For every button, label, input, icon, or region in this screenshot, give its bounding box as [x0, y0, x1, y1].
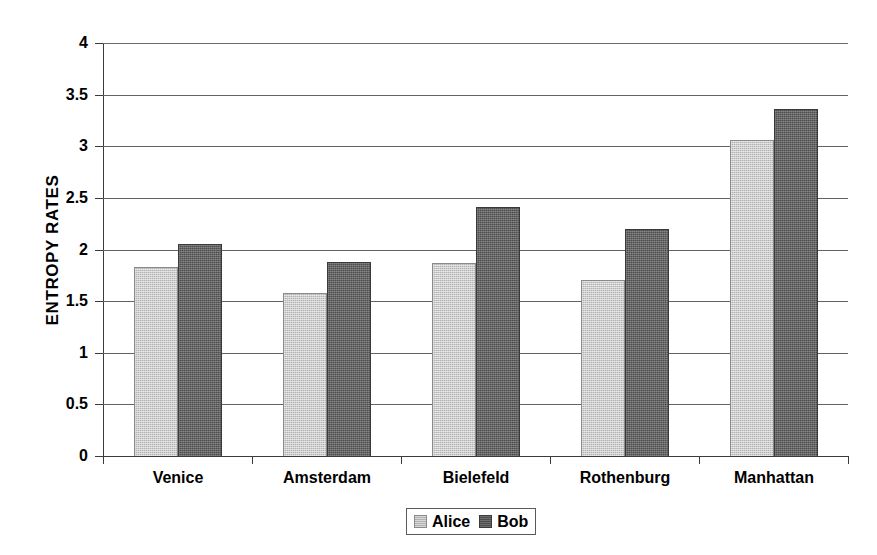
bar-venice-bob: [178, 244, 222, 456]
bar-amsterdam-alice: [283, 293, 327, 456]
bar-manhattan-bob: [774, 109, 818, 456]
x-tick-mark-rothenburg: [699, 456, 700, 464]
gridline-3.5: [103, 95, 848, 96]
bar-venice-alice: [134, 267, 178, 456]
bar-rothenburg-bob: [625, 229, 669, 456]
x-tick-mark-venice: [252, 456, 253, 464]
entropy-rates-bar-chart: ENTROPY RATES 43.532.521.510.50 VeniceAm…: [0, 0, 877, 555]
y-tick-label-1: 1: [28, 345, 88, 361]
legend-swatch-bob-icon: [479, 515, 492, 528]
y-tick-mark-2: [95, 250, 103, 251]
y-tick-mark-0: [95, 456, 103, 457]
y-tick-mark-0.5: [95, 404, 103, 405]
x-axis-label-manhattan: Manhattan: [684, 469, 864, 487]
legend-label-alice: Alice: [432, 514, 470, 530]
y-tick-label-4: 4: [28, 35, 88, 51]
y-tick-label-0.5: 0.5: [28, 396, 88, 412]
bar-bielefeld-bob: [476, 207, 520, 456]
gridline-4: [103, 43, 848, 44]
y-tick-label-2: 2: [28, 242, 88, 258]
x-tick-mark-manhattan: [848, 456, 849, 464]
y-tick-mark-4: [95, 43, 103, 44]
legend-swatch-alice-icon: [414, 515, 427, 528]
y-tick-mark-3: [95, 146, 103, 147]
x-tick-mark-bielefeld: [550, 456, 551, 464]
y-tick-label-3.5: 3.5: [28, 87, 88, 103]
y-tick-label-3: 3: [28, 138, 88, 154]
y-tick-mark-1.5: [95, 301, 103, 302]
y-tick-label-1.5: 1.5: [28, 293, 88, 309]
legend-entry-bob[interactable]: Bob: [479, 514, 528, 530]
chart-legend: AliceBob: [406, 508, 536, 535]
bar-amsterdam-bob: [327, 262, 371, 456]
y-tick-label-2.5: 2.5: [28, 190, 88, 206]
x-tick-mark-origin: [103, 456, 104, 464]
legend-entry-alice[interactable]: Alice: [414, 514, 470, 530]
plot-area: [103, 43, 848, 456]
y-axis-tick-labels: 43.532.521.510.50: [20, 0, 88, 555]
x-tick-mark-amsterdam: [401, 456, 402, 464]
y-tick-mark-3.5: [95, 95, 103, 96]
legend-label-bob: Bob: [497, 514, 528, 530]
bar-manhattan-alice: [730, 140, 774, 456]
bar-bielefeld-alice: [432, 263, 476, 456]
bar-rothenburg-alice: [581, 280, 625, 456]
gridline-0: [103, 456, 848, 457]
y-tick-label-0: 0: [28, 448, 88, 464]
y-tick-mark-2.5: [95, 198, 103, 199]
y-tick-mark-1: [95, 353, 103, 354]
